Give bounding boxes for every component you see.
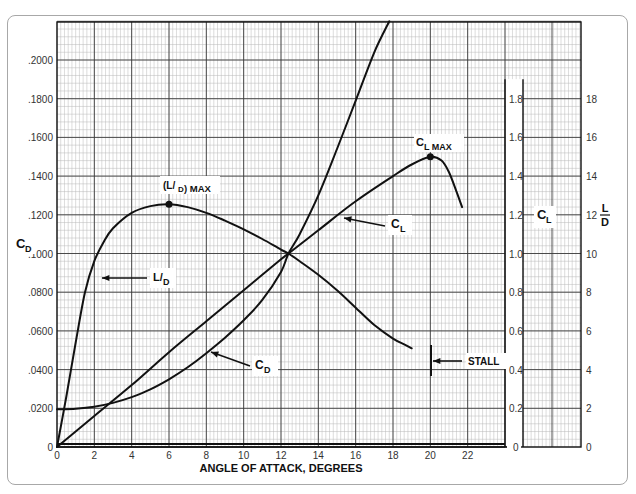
svg-text:D: D [163, 277, 170, 287]
svg-text:0.2: 0.2 [509, 403, 523, 414]
svg-text:14: 14 [586, 171, 598, 182]
svg-text:.0200: .0200 [28, 403, 53, 414]
svg-text:.2000: .2000 [28, 55, 53, 66]
svg-text:) MAX: ) MAX [184, 183, 212, 194]
svg-text:6: 6 [166, 450, 172, 461]
svg-text:10: 10 [586, 249, 598, 260]
y-axis-title-ld: L D [600, 202, 610, 228]
svg-text:16: 16 [586, 132, 598, 143]
svg-text:6: 6 [586, 326, 592, 337]
svg-text:D: D [25, 244, 32, 254]
svg-text:0.8: 0.8 [509, 287, 523, 298]
svg-text:20: 20 [425, 450, 437, 461]
svg-text:1.6: 1.6 [509, 132, 523, 143]
svg-text:C: C [416, 136, 424, 148]
svg-text:18: 18 [586, 94, 598, 105]
svg-text:.1400: .1400 [28, 171, 53, 182]
svg-text:1.0: 1.0 [509, 249, 523, 260]
svg-text:1.4: 1.4 [509, 171, 523, 182]
svg-text:14: 14 [313, 450, 325, 461]
svg-text:12: 12 [275, 450, 287, 461]
svg-text:(L/: (L/ [163, 180, 175, 191]
svg-text:0: 0 [586, 442, 592, 453]
svg-text:C: C [255, 358, 264, 372]
curve-ld [57, 204, 412, 447]
svg-text:L: L [602, 202, 609, 214]
svg-text:C: C [391, 217, 400, 231]
svg-text:1.8: 1.8 [509, 94, 523, 105]
svg-text:.0600: .0600 [28, 326, 53, 337]
svg-text:.1600: .1600 [28, 132, 53, 143]
svg-text:.1200: .1200 [28, 210, 53, 221]
y-axis-title-cd: C D [14, 234, 36, 254]
svg-text:4: 4 [129, 450, 135, 461]
svg-text:16: 16 [350, 450, 362, 461]
x-axis-title: ANGLE OF ATTACK, DEGREES [200, 462, 363, 474]
svg-text:22: 22 [462, 450, 474, 461]
svg-text:.0800: .0800 [28, 287, 53, 298]
svg-text:18: 18 [387, 450, 399, 461]
svg-text:2: 2 [586, 403, 592, 414]
svg-text:10: 10 [238, 450, 250, 461]
svg-text:L/: L/ [153, 271, 163, 283]
svg-text:8: 8 [586, 287, 592, 298]
svg-text:0.4: 0.4 [509, 365, 523, 376]
minor-grid [57, 22, 581, 448]
curve-cd [57, 21, 389, 409]
svg-text:.0400: .0400 [28, 365, 53, 376]
svg-text:L: L [546, 215, 552, 225]
svg-text:L: L [400, 224, 406, 234]
svg-text:STALL: STALL [468, 356, 499, 367]
svg-text:8: 8 [204, 450, 210, 461]
chart-svg: 02468101214161820220.0200.0400.0600.0800… [0, 0, 636, 494]
svg-text:.1800: .1800 [28, 94, 53, 105]
svg-text:12: 12 [586, 210, 598, 221]
svg-text:1.2: 1.2 [509, 210, 523, 221]
svg-text:0: 0 [47, 442, 53, 453]
svg-text:4: 4 [586, 365, 592, 376]
svg-text:L MAX: L MAX [424, 142, 452, 152]
svg-text:0.6: 0.6 [509, 326, 523, 337]
svg-text:0: 0 [54, 450, 60, 461]
svg-text:D: D [264, 365, 271, 375]
y-axis-title-cl: C L [534, 206, 556, 228]
svg-text:2: 2 [92, 450, 98, 461]
svg-text:D: D [601, 216, 609, 228]
svg-text:0: 0 [513, 442, 519, 453]
